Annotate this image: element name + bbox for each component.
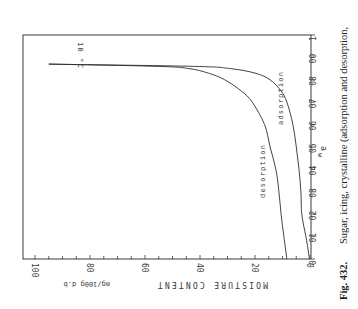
water-activity-tick-label: 07	[309, 98, 318, 108]
temperature-label: 10 °C	[76, 42, 84, 69]
water-activity-tick-label: 05	[309, 143, 318, 153]
figure-caption-text: Sugar, icing, crystalline (adsorption an…	[338, 27, 350, 244]
adsorption-label: adsorption	[277, 71, 285, 125]
water-activity-tick-label: 08	[309, 76, 318, 86]
figure-caption: Fig. 432. Sugar, icing, crystalline (ads…	[338, 27, 350, 300]
moisture-axis-ticks: 020406080100	[30, 255, 314, 278]
water-activity-tick-label: 06	[309, 121, 318, 131]
water-activity-tick-label: 09	[309, 54, 318, 64]
plot-frame	[23, 35, 311, 259]
moisture-tick-label: 60	[140, 263, 149, 273]
moisture-axis-unit: mg/100g d.b	[64, 280, 110, 288]
adsorption-curve	[49, 64, 310, 259]
moisture-tick-label: 40	[195, 263, 204, 273]
moisture-tick-label: 80	[85, 263, 94, 273]
water-activity-tick-label: 03	[309, 188, 318, 198]
desorption-curve	[49, 64, 287, 259]
moisture-tick-label: 100	[30, 263, 39, 278]
water-activity-tick-label: 0	[309, 260, 318, 265]
water-activity-axis-label: a	[319, 146, 328, 151]
water-activity-tick-label: 01	[309, 233, 318, 243]
water-activity-axis-ticks: 00102030405060708091	[309, 35, 318, 265]
water-activity-tick-label: 02	[309, 210, 318, 220]
figure-number: Fig. 432.	[338, 261, 349, 300]
water-activity-tick-label: 04	[309, 166, 318, 176]
desorption-label: desorption	[259, 144, 267, 198]
moisture-tick-label: 20	[250, 263, 259, 273]
water-activity-tick-label: 1	[309, 36, 318, 41]
sorption-isotherm-figure: 020406080100 00102030405060708091 adsorp…	[0, 0, 358, 309]
moisture-axis-title: MOISTURE CONTENT mg/100g d.b	[64, 280, 268, 289]
moisture-axis-label: MOISTURE CONTENT	[156, 280, 268, 289]
water-activity-axis-subscript: w	[316, 153, 324, 158]
